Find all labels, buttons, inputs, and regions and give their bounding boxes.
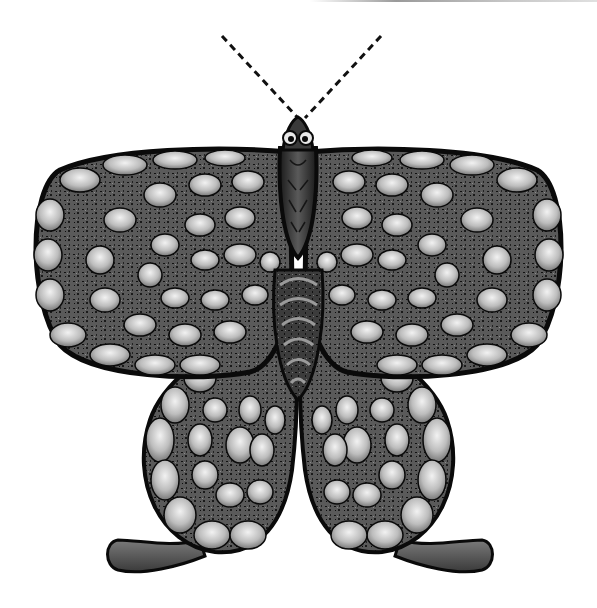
- butterfly-illustration: [0, 0, 597, 608]
- right-forewing: [305, 149, 563, 377]
- eye-spot-right: [299, 131, 313, 145]
- left-forewing: [34, 149, 292, 377]
- eye-spot-left: [283, 131, 297, 145]
- head-with-eye-spots: [283, 117, 313, 150]
- dashed-antennae: [222, 36, 381, 118]
